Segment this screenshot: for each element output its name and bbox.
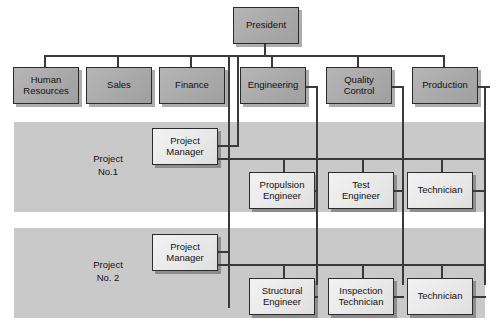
node-structural-engineer-label: Structural Engineer — [260, 286, 305, 308]
connector-engineering-trunk — [316, 86, 318, 285]
node-quality-control[interactable]: Quality Control — [326, 67, 392, 104]
connector-drop-sales — [117, 55, 119, 67]
node-inspection-technician[interactable]: Inspection Technician — [328, 278, 394, 315]
node-human-resources[interactable]: Human Resources — [13, 67, 79, 104]
connector-drop-production — [443, 55, 445, 67]
connector-pm-trunk-inner — [237, 55, 239, 147]
node-technician-1[interactable]: Technician — [407, 172, 473, 209]
node-project-manager-2[interactable]: Project Manager — [152, 234, 218, 271]
node-president-label: President — [244, 20, 288, 31]
project-band-1-label: Project No.1 — [63, 153, 153, 179]
node-sales[interactable]: Sales — [86, 67, 152, 104]
connector-drop-finance — [190, 55, 192, 67]
connector-drop-human-resources — [44, 55, 46, 67]
node-structural-engineer[interactable]: Structural Engineer — [249, 278, 315, 315]
node-production[interactable]: Production — [412, 67, 478, 104]
node-technician-1-label: Technician — [416, 185, 465, 196]
node-project-manager-1[interactable]: Project Manager — [152, 128, 218, 165]
node-president[interactable]: President — [233, 7, 299, 44]
connector-production-trunk — [484, 86, 486, 285]
node-test-engineer-label: Test Engineer — [340, 180, 382, 202]
node-finance[interactable]: Finance — [159, 67, 225, 104]
node-sales-label: Sales — [105, 80, 133, 91]
node-propulsion-engineer[interactable]: Propulsion Engineer — [249, 172, 315, 209]
connector-drop-engineering — [271, 55, 273, 67]
node-human-resources-label: Human Resources — [21, 75, 70, 97]
org-chart-diagram: Project No.1 Project No. 2 President — [0, 0, 499, 331]
node-engineering-label: Engineering — [246, 80, 301, 91]
connector-production-to-technician1 — [472, 190, 486, 192]
node-technician-2[interactable]: Technician — [407, 278, 473, 315]
connector-main-bus — [44, 55, 444, 57]
node-propulsion-engineer-label: Propulsion Engineer — [258, 180, 307, 202]
node-technician-2-label: Technician — [416, 291, 465, 302]
node-finance-label: Finance — [173, 80, 211, 91]
connector-pm-trunk-outer — [228, 55, 230, 308]
node-project-manager-1-label: Project Manager — [164, 136, 206, 158]
node-production-label: Production — [420, 80, 469, 91]
connector-pm1-bus — [216, 158, 484, 160]
node-quality-control-label: Quality Control — [342, 75, 377, 97]
project-band-2-label: Project No. 2 — [63, 259, 153, 285]
node-project-manager-2-label: Project Manager — [164, 242, 206, 264]
connector-production-to-technician2 — [472, 296, 486, 298]
node-inspection-technician-label: Inspection Technician — [337, 286, 386, 308]
connector-pm1-elbow — [216, 145, 239, 147]
connector-pm2-elbow — [216, 251, 230, 253]
connector-quality-trunk — [402, 86, 404, 285]
connector-drop-quality-control — [357, 55, 359, 67]
node-engineering[interactable]: Engineering — [240, 67, 306, 104]
node-test-engineer[interactable]: Test Engineer — [328, 172, 394, 209]
connector-pm2-bus — [216, 264, 484, 266]
